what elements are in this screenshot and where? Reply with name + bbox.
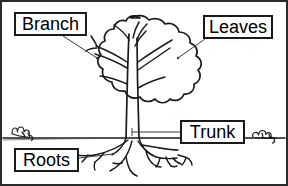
tree-diagram: Branch Leaves Trunk Roots	[0, 0, 288, 186]
label-roots[interactable]: Roots	[14, 148, 79, 172]
canopy-foliage	[98, 16, 201, 103]
root-system	[76, 138, 192, 176]
shrub-right-icon	[253, 131, 276, 144]
label-leaves[interactable]: Leaves	[203, 15, 273, 39]
label-branch[interactable]: Branch	[14, 12, 87, 36]
label-trunk[interactable]: Trunk	[180, 120, 245, 144]
